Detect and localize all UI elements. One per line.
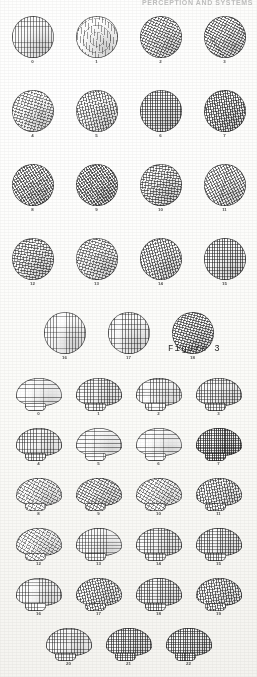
- specimen-cell: 12: [16, 528, 62, 566]
- specimen-cell: 11: [204, 164, 246, 212]
- circle-specimen-grid: 0123456789101112131415161718: [0, 16, 257, 360]
- specimen-cell: 7: [196, 428, 242, 466]
- specimen-cell: 7: [204, 90, 246, 138]
- specimen-cell: 19: [196, 578, 242, 616]
- brain-stem: [85, 403, 106, 411]
- specimen-label: 7: [223, 133, 225, 138]
- brain-cortex: [196, 528, 242, 556]
- hatch-texture: [175, 653, 196, 661]
- shading-overlay: [140, 16, 182, 58]
- specimen-cell: 2: [140, 16, 182, 64]
- specimen-cell: 6: [136, 428, 182, 466]
- specimen-label: 12: [16, 561, 62, 566]
- specimen-label: 3: [196, 411, 242, 416]
- brain-stem: [85, 503, 106, 511]
- specimen-cell: 3: [204, 16, 246, 64]
- scanned-page: PERCEPTION AND SYSTEMS 01234567891011121…: [0, 0, 257, 677]
- brain-cortex: [196, 478, 242, 506]
- brain-stem: [85, 603, 106, 611]
- brain-stem: [85, 553, 106, 561]
- brain-stem: [25, 403, 46, 411]
- brain-cortex: [136, 528, 182, 556]
- shading-overlay: [196, 578, 242, 606]
- specimen-label: 4: [16, 461, 62, 466]
- shading-overlay: [16, 578, 62, 606]
- specimen-label: 0: [31, 59, 33, 64]
- specimen-cell: 12: [12, 238, 54, 286]
- brain-stem: [205, 453, 226, 461]
- specimen-label: 3: [223, 59, 225, 64]
- specimen-label: 18: [136, 611, 182, 616]
- brain-cortex: [136, 478, 182, 506]
- brain-stem: [25, 603, 46, 611]
- specimen-label: 17: [126, 355, 131, 360]
- circle-specimen: [12, 90, 54, 132]
- circle-specimen: [204, 90, 246, 132]
- specimen-label: 16: [62, 355, 67, 360]
- specimen-cell: 16: [44, 312, 86, 360]
- specimen-label: 8: [16, 511, 62, 516]
- specimen-cell: 1: [76, 378, 122, 416]
- shading-overlay: [76, 378, 122, 406]
- specimen-label: 9: [76, 511, 122, 516]
- specimen-cell: 17: [108, 312, 150, 360]
- brain-specimen: 11: [196, 478, 242, 516]
- hatch-texture: [85, 403, 106, 411]
- circle-specimen: [140, 238, 182, 280]
- shading-overlay: [136, 578, 182, 606]
- specimen-label: 10: [158, 207, 163, 212]
- hatch-texture: [25, 453, 46, 461]
- specimen-row: 891011: [0, 164, 257, 212]
- brain-stem: [205, 603, 226, 611]
- specimen-label: 8: [31, 207, 33, 212]
- brain-cortex: [46, 628, 92, 656]
- shading-overlay: [204, 238, 246, 280]
- specimen-label: 2: [136, 411, 182, 416]
- brain-cortex: [76, 378, 122, 406]
- specimen-label: 10: [136, 511, 182, 516]
- specimen-label: 2: [159, 59, 161, 64]
- specimen-row: 0123: [0, 16, 257, 64]
- specimen-label: 14: [136, 561, 182, 566]
- shading-overlay: [76, 90, 118, 132]
- brain-cortex: [76, 428, 122, 456]
- shading-overlay: [140, 238, 182, 280]
- circle-specimen: [140, 16, 182, 58]
- specimen-label: 1: [76, 411, 122, 416]
- circle-specimen: [44, 312, 86, 354]
- brain-stem: [175, 653, 196, 661]
- shading-overlay: [46, 628, 92, 656]
- brain-stem: [205, 503, 226, 511]
- specimen-row: 202122: [0, 628, 257, 666]
- brain-specimen: 0: [16, 378, 62, 416]
- brain-specimen: 16: [16, 578, 62, 616]
- brain-cortex: [76, 478, 122, 506]
- specimen-row: 0123: [0, 378, 257, 416]
- specimen-cell: 16: [16, 578, 62, 616]
- shading-overlay: [108, 312, 150, 354]
- specimen-label: 12: [30, 281, 35, 286]
- hatch-texture: [145, 403, 166, 411]
- shading-overlay: [166, 628, 212, 656]
- shading-overlay: [204, 16, 246, 58]
- brain-stem: [205, 403, 226, 411]
- circle-specimen: [204, 164, 246, 206]
- shading-overlay: [136, 478, 182, 506]
- brain-cortex: [16, 578, 62, 606]
- brain-cortex: [16, 428, 62, 456]
- circle-specimen: [12, 16, 54, 58]
- specimen-cell: 11: [196, 478, 242, 516]
- shading-overlay: [140, 90, 182, 132]
- brain-specimen: 18: [136, 578, 182, 616]
- specimen-cell: 4: [16, 428, 62, 466]
- brain-cortex: [76, 528, 122, 556]
- hatch-texture: [25, 403, 46, 411]
- circle-specimen: [140, 90, 182, 132]
- specimen-cell: 0: [12, 16, 54, 64]
- brain-specimen: 19: [196, 578, 242, 616]
- circle-specimen: [76, 164, 118, 206]
- brain-specimen: 5: [76, 428, 122, 466]
- shading-overlay: [12, 90, 54, 132]
- specimen-cell: 22: [166, 628, 212, 666]
- brain-stem: [85, 453, 106, 461]
